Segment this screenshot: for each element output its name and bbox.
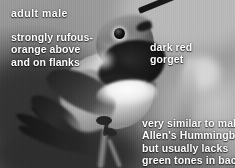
hummingbird-field-guide-figure: adult male strongly rufous- orange above… [0, 0, 235, 168]
bill [138, 0, 200, 14]
cheek [92, 50, 116, 70]
annotation-dark-red-gorget: dark red gorget [150, 41, 192, 66]
foot [96, 116, 112, 125]
annotation-allens-comparison: very similar to male Allen's Hummingbird… [142, 117, 235, 167]
eye [114, 28, 125, 39]
annotation-rufous-orange: strongly rufous- orange above and on fla… [11, 31, 93, 68]
annotation-adult-male: adult male [11, 7, 68, 19]
